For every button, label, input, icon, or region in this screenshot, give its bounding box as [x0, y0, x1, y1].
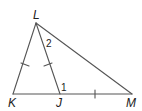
segment-lm	[36, 23, 132, 94]
angle-label-1: 1	[61, 82, 67, 93]
vertex-label-m: M	[126, 96, 136, 110]
segment-lj	[36, 23, 60, 94]
segment-lk	[13, 23, 36, 94]
vertex-label-j: J	[55, 96, 63, 110]
vertex-label-l: L	[33, 8, 40, 22]
angle-label-2: 2	[46, 38, 52, 49]
vertex-label-k: K	[8, 96, 17, 110]
triangle-diagram: L K J M 2 1	[0, 0, 142, 111]
